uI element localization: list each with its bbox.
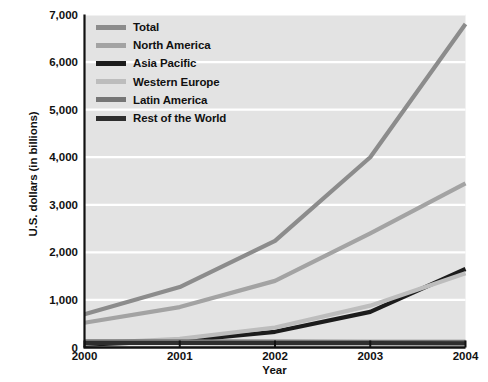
y-axis-tick-labels: 01,0002,0003,0004,0005,0006,0007,000 <box>18 0 78 382</box>
chart-legend: TotalNorth AmericaAsia PacificWestern Eu… <box>96 18 306 127</box>
legend-label: Western Europe <box>133 76 220 88</box>
x-axis-tick-label: 2002 <box>240 350 310 362</box>
legend-item: Western Europe <box>96 73 306 91</box>
y-axis-tick-label: 2,000 <box>22 246 78 258</box>
legend-label: Asia Pacific <box>133 57 196 69</box>
y-axis-tick-label: 5,000 <box>22 104 78 116</box>
legend-label: Total <box>133 21 159 33</box>
legend-swatch-icon <box>96 79 126 84</box>
x-axis-title: Year <box>84 364 465 376</box>
legend-item: North America <box>96 36 306 54</box>
line-chart: U.S. dollars (in billions) 01,0002,0003,… <box>0 0 488 382</box>
x-axis-tick-label: 2000 <box>50 350 120 362</box>
y-axis-tick-label: 1,000 <box>22 294 78 306</box>
legend-swatch-icon <box>96 61 126 66</box>
legend-label: Rest of the World <box>133 112 226 124</box>
y-axis-tick-label: 3,000 <box>22 199 78 211</box>
legend-label: North America <box>133 39 211 51</box>
legend-swatch-icon <box>96 25 126 30</box>
legend-item: Latin America <box>96 91 306 109</box>
legend-label: Latin America <box>133 94 207 106</box>
legend-item: Asia Pacific <box>96 54 306 72</box>
y-axis-tick-label: 7,000 <box>22 9 78 21</box>
legend-item: Rest of the World <box>96 109 306 127</box>
y-axis-tick-label: 4,000 <box>22 151 78 163</box>
legend-swatch-icon <box>96 97 126 102</box>
x-axis-tick-label: 2004 <box>431 350 488 362</box>
x-axis-tick-label: 2003 <box>335 350 405 362</box>
x-axis-tick-label: 2001 <box>145 350 215 362</box>
y-axis-tick-label: 6,000 <box>22 56 78 68</box>
legend-item: Total <box>96 18 306 36</box>
legend-swatch-icon <box>96 43 126 48</box>
legend-swatch-icon <box>96 116 126 121</box>
